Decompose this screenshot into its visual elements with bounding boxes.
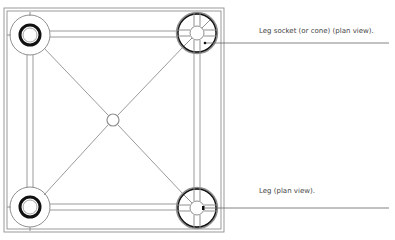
leg-bottom-left: [7, 187, 50, 231]
leg-label: Leg (plan view).: [259, 187, 315, 195]
frame-plan-diagram: [0, 0, 395, 240]
center-hub: [107, 114, 119, 126]
inner-frame: [7, 11, 221, 229]
socket-label: Leg socket (or cone) (plan view).: [259, 27, 374, 35]
leg-top-left: [7, 12, 50, 55]
leg-socket-top-right: [177, 13, 217, 53]
